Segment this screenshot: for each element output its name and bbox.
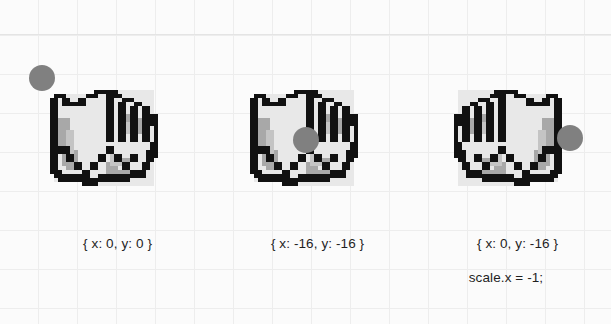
panel-caption: { x: -16, y: -16 } [206,218,406,269]
sprite-container [442,78,570,206]
anchor-dot [557,125,583,151]
caption-line-2: scale.x = -1; [406,269,606,286]
anchor-dot [293,127,319,153]
caption-line-1: { x: 0, y: -16 } [477,236,558,251]
anchor-dot [29,65,55,91]
hand-sprite-icon [442,78,570,206]
graph-paper-canvas: { x: 0, y: 0 } [0,0,611,324]
sprite-panel-origin-top-left: { x: 0, y: 0 } [6,0,206,324]
hand-sprite-icon [42,78,170,206]
panel-caption: { x: 0, y: 0 } [6,218,206,269]
panel-caption: { x: 0, y: -16 } scale.x = -1; [406,218,606,320]
caption-line-1: { x: 0, y: 0 } [83,236,152,251]
caption-line-1: { x: -16, y: -16 } [271,236,364,251]
sprite-container [242,78,370,206]
sprite-panel-origin-mirrored: { x: 0, y: -16 } scale.x = -1; [406,0,606,324]
sprite-container [42,78,170,206]
sprite-panel-origin-center: { x: -16, y: -16 } [206,0,406,324]
